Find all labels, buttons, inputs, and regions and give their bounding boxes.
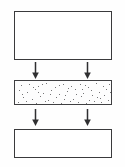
stipple-dot	[88, 87, 89, 88]
stage-box-middle-stippled	[14, 80, 112, 105]
stipple-dot	[75, 89, 76, 90]
stipple-dot	[61, 103, 62, 104]
stipple-dot	[104, 95, 105, 96]
stipple-dot	[63, 84, 64, 85]
stipple-dot	[71, 86, 72, 87]
stipple-dot	[22, 94, 23, 95]
stipple-dot	[35, 89, 36, 90]
stipple-dot	[92, 95, 93, 96]
arrow-down-bottom-right	[83, 109, 92, 127]
stipple-dot	[81, 96, 82, 97]
process-flow-diagram	[0, 0, 125, 167]
stipple-dot	[23, 97, 24, 98]
stipple-dot	[89, 100, 90, 101]
stipple-dot	[85, 85, 86, 86]
stipple-dot	[80, 84, 81, 85]
stipple-dot	[59, 94, 60, 95]
stipple-dot	[103, 86, 104, 87]
stipple-dot	[45, 101, 46, 102]
stipple-dot	[38, 92, 39, 93]
stipple-dot	[40, 96, 41, 97]
stipple-dot	[56, 97, 57, 98]
stipple-dot	[108, 100, 109, 101]
stipple-dot	[94, 101, 95, 102]
stipple-dot	[42, 84, 43, 85]
stipple-dot	[51, 90, 52, 91]
stipple-dot	[83, 93, 84, 94]
stipple-dot	[53, 102, 54, 103]
stipple-dot	[78, 102, 79, 103]
stage-box-bottom	[14, 129, 112, 158]
stipple-dot	[68, 88, 69, 89]
stipple-dot	[29, 84, 30, 85]
stipple-dot	[106, 89, 107, 90]
stipple-dot	[46, 83, 47, 84]
stipple-dot	[65, 95, 66, 96]
stipple-dot	[73, 99, 74, 100]
stipple-dot	[100, 98, 101, 99]
stipple-dot	[50, 94, 51, 95]
stipple-dot	[21, 85, 22, 86]
stipple-dot	[70, 101, 71, 102]
stipple-dot	[109, 84, 110, 85]
arrow-down-bottom-left	[31, 109, 40, 127]
stipple-dot	[38, 86, 39, 87]
stage-box-top	[14, 11, 112, 60]
stipple-dot	[110, 92, 111, 93]
arrow-down-top-right	[83, 62, 92, 80]
stipple-dot	[59, 85, 60, 86]
stipple-dot	[36, 103, 37, 104]
stipple-dot	[99, 92, 100, 93]
stipple-dot	[76, 94, 77, 95]
stipple-texture	[15, 81, 111, 104]
stipple-dot	[97, 97, 98, 98]
stipple-dot	[48, 100, 49, 101]
stipple-dot	[82, 89, 83, 90]
stipple-dot	[32, 99, 33, 100]
stipple-dot	[19, 90, 20, 91]
stipple-dot	[43, 93, 44, 94]
stipple-dot	[96, 83, 97, 84]
stipple-dot	[91, 90, 92, 91]
stipple-dot	[27, 92, 28, 93]
stipple-dot	[64, 99, 65, 100]
stipple-dot	[26, 101, 27, 102]
arrow-down-top-left	[31, 62, 40, 80]
stipple-dot	[33, 87, 34, 88]
stipple-dot	[86, 103, 87, 104]
stipple-dot	[67, 91, 68, 92]
stipple-dot	[18, 102, 19, 103]
stipple-dot	[101, 102, 102, 103]
stipple-dot	[55, 87, 56, 88]
